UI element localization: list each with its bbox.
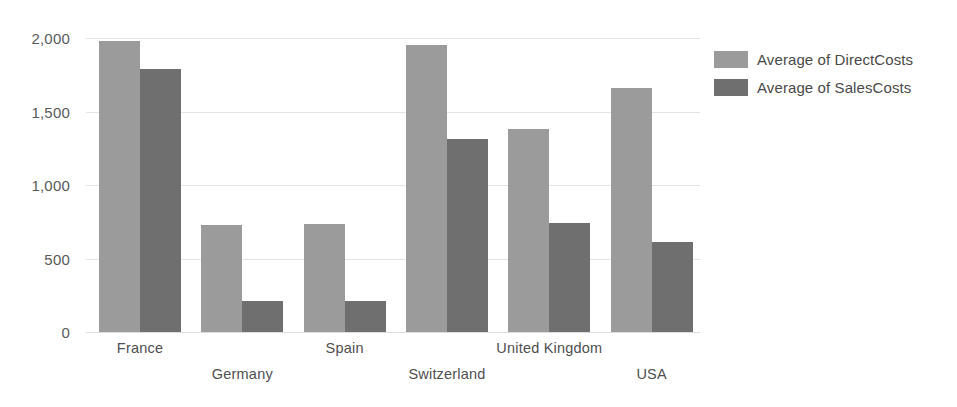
x-axis-tick-label: Switzerland (408, 366, 485, 382)
y-axis-tick-label: 500 (0, 250, 70, 267)
y-axis-tick-label: 0 (0, 324, 70, 341)
legend-swatch-icon (714, 51, 748, 68)
bars-layer (86, 38, 700, 332)
bar[interactable] (201, 225, 242, 332)
bar[interactable] (406, 45, 447, 332)
plot-area (86, 38, 700, 332)
y-axis: 2,000 1,500 1,000 500 0 (0, 0, 80, 407)
bar[interactable] (508, 129, 549, 332)
x-axis-tick-label: France (117, 340, 163, 356)
legend: Average of DirectCosts Average of SalesC… (714, 46, 944, 102)
x-axis-tick-label: USA (636, 366, 666, 382)
legend-swatch-icon (714, 79, 748, 96)
y-axis-tick-label: 1,000 (0, 177, 70, 194)
x-axis-tick-label: United Kingdom (496, 340, 602, 356)
legend-item[interactable]: Average of DirectCosts (714, 46, 944, 72)
bar[interactable] (652, 242, 693, 332)
bar[interactable] (611, 88, 652, 332)
bar[interactable] (447, 139, 488, 332)
bar[interactable] (99, 41, 140, 332)
x-axis-tick-label: Spain (326, 340, 364, 356)
bar[interactable] (140, 69, 181, 332)
bar[interactable] (549, 223, 590, 332)
gridline (86, 332, 700, 333)
legend-item-label: Average of DirectCosts (757, 51, 913, 68)
y-axis-tick-label: 2,000 (0, 30, 70, 47)
bar[interactable] (345, 301, 386, 332)
bar[interactable] (304, 224, 345, 332)
legend-item-label: Average of SalesCosts (757, 79, 911, 96)
bar[interactable] (242, 301, 283, 332)
x-axis: FranceGermanySpainSwitzerlandUnited King… (86, 334, 700, 404)
y-axis-tick-label: 1,500 (0, 103, 70, 120)
bar-chart: 2,000 1,500 1,000 500 0 FranceGermanySpa… (0, 0, 957, 407)
x-axis-tick-label: Germany (212, 366, 273, 382)
legend-item[interactable]: Average of SalesCosts (714, 74, 944, 100)
